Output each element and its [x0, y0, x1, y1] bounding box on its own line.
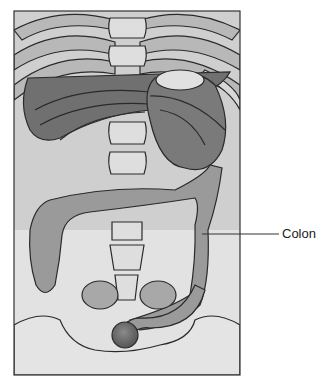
- colon-label: Colon: [282, 226, 316, 242]
- rectum: [112, 322, 138, 348]
- gallbladder: [156, 70, 204, 90]
- anatomy-figure: [0, 0, 319, 388]
- abdomen-illustration: [0, 0, 319, 388]
